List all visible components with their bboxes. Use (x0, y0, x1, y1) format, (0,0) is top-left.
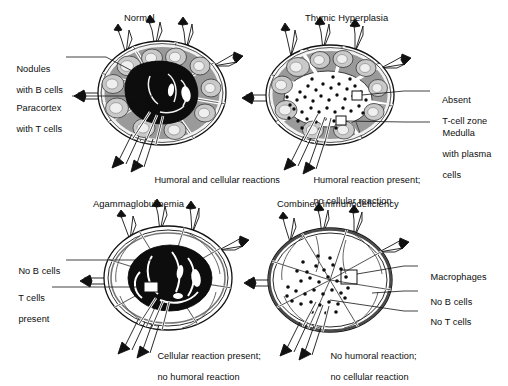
caption-line: no cellular reaction (313, 196, 391, 206)
callout-box-macrophages (341, 270, 357, 284)
caption-line: Cellular reaction present; (157, 351, 260, 361)
efferent-lymphatic-arrows (280, 322, 321, 360)
label-line: Nodules (16, 64, 50, 74)
caption-agammaglobulinemia: Cellular reaction present; no humoral re… (147, 340, 261, 386)
node-normal (74, 15, 243, 172)
panel-title-normal: Normal (124, 13, 155, 24)
capsule (98, 41, 226, 145)
nodules-with-b-cells-group (102, 48, 221, 140)
nodules-with-b-cells-group (272, 51, 388, 140)
capsule (104, 226, 232, 330)
caption-combined-immunodeficiency: No humoral reaction; no cellular reactio… (320, 340, 417, 386)
callout-box-absent-t-cell-zone (352, 91, 362, 100)
label-line: with T cells (16, 124, 62, 134)
label-line: Paracortex (16, 103, 61, 113)
capsule (268, 228, 392, 332)
paracortex-dark-zone (125, 61, 198, 124)
medulla-pale-zone (284, 71, 372, 127)
panel-title-agammaglobulinemia: Agammaglobulinemia (93, 199, 184, 210)
macrophage-dots (285, 254, 350, 315)
label-line: with plasma (442, 149, 491, 159)
capsule (266, 45, 394, 145)
label-line: Absent (442, 95, 471, 105)
afferent-lymphatic-arrows (281, 17, 411, 68)
label-line: present (18, 314, 49, 324)
caption-line: Humoral reaction present; (313, 175, 420, 185)
leader-macrophages (357, 266, 418, 274)
caption-line: no humoral reaction (157, 372, 239, 382)
label-line: Medulla (442, 128, 475, 138)
caption-line: no cellular reaction (330, 372, 408, 382)
label-line: No T cells (430, 317, 471, 327)
label-line: Macrophages (430, 272, 486, 282)
label-no-t-cells: No T cells (420, 306, 471, 338)
node-agammaglobulinemia (80, 199, 249, 358)
lymph-node-figure: Normal Thymic Hyperplasia Agammaglobulin… (0, 0, 508, 386)
leader-medulla-with-plasma-cells (346, 121, 430, 122)
callout-box-medulla (336, 116, 346, 125)
leader-no-t-cells (330, 300, 418, 311)
node-combined-immunodeficiency (244, 203, 409, 360)
label-line: cells (442, 170, 461, 180)
caption-thymic-hyperplasia: Humoral reaction present; no cellular re… (303, 164, 420, 217)
label-paracortex-with-t-cells: Paracortex with T cells (6, 92, 62, 145)
label-t-cells-present: T cells present (8, 282, 49, 335)
leader-no-b-cells-combined (372, 291, 418, 293)
node-thymic-hyperplasia (242, 17, 411, 174)
caption-line: No humoral reaction; (330, 351, 416, 361)
leader-absent-t-cell-zone (362, 91, 430, 95)
label-line: No B cells (18, 266, 60, 276)
label-medulla-with-plasma-cells: Medulla with plasma cells (432, 117, 491, 191)
caption-normal: Humoral and cellular reactions (144, 164, 280, 196)
plasma-cell-dots (285, 75, 367, 130)
callout-box-t-cells-present (144, 282, 158, 292)
leader-nodules-with-b-cells (66, 57, 136, 73)
paracortex-dark-zone (128, 245, 212, 311)
caption-line: Humoral and cellular reactions (154, 175, 280, 185)
panel-title-thymic-hyperplasia: Thymic Hyperplasia (305, 13, 388, 24)
label-line: T cells (18, 293, 45, 303)
